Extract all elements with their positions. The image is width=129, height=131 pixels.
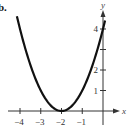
y-axis-arrow-icon [101,10,106,17]
parabola-chart: b. x y −4−3−2−1 124 [0,0,129,131]
x-tick-label: −1 [76,117,86,127]
x-tick-label: −2 [56,117,66,127]
part-label: b. [0,1,7,13]
x-axis-label: x [121,106,126,116]
x-tick-label: −4 [14,117,24,127]
x-axis: x [8,106,126,116]
x-axis-arrow-icon [113,109,120,114]
parabola-curve [17,16,105,111]
y-tick-label: 4 [94,24,99,34]
y-tick-label: 1 [94,86,99,96]
y-axis-label: y [100,0,105,10]
y-tick-label: 2 [94,65,99,75]
x-tick-label: −3 [35,117,45,127]
y-axis: y [100,0,106,125]
